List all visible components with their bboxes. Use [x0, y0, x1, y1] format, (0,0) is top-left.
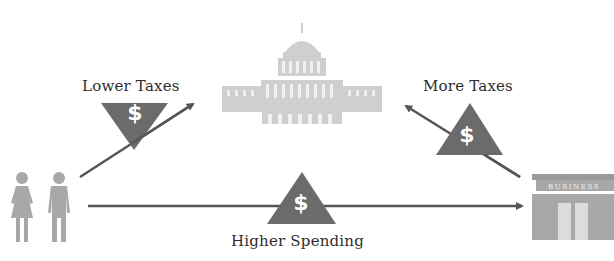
lower-taxes-label: Lower Taxes — [82, 77, 180, 95]
business-sign-text: BUSINESS — [548, 183, 600, 191]
capitol-building-icon — [222, 23, 382, 124]
dollar-sign-icon: $ — [286, 192, 316, 214]
more-taxes-label: More Taxes — [423, 77, 513, 95]
diagram-canvas — [0, 0, 614, 261]
dollar-sign-icon: $ — [120, 102, 150, 124]
higher-spending-label: Higher Spending — [231, 232, 364, 250]
people-icon — [11, 172, 70, 242]
tax-flow-diagram: Lower Taxes More Taxes Higher Spending $… — [0, 0, 614, 261]
dollar-sign-icon: $ — [452, 124, 482, 146]
